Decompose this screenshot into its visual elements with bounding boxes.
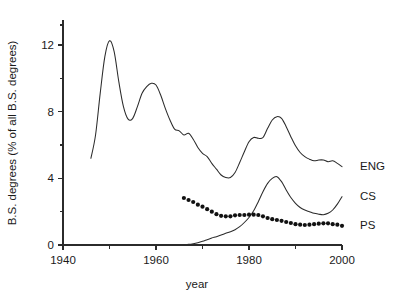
data-point xyxy=(293,222,297,226)
data-point xyxy=(321,221,325,225)
data-point xyxy=(247,213,251,217)
y-tick-label: 0 xyxy=(48,239,54,251)
data-point xyxy=(335,223,339,227)
series-label-cs: CS xyxy=(360,190,376,202)
data-point xyxy=(312,222,316,226)
x-axis-title: year xyxy=(186,278,209,290)
chart-figure: 04812 1940196019802000 ENGCSPS year B.S.… xyxy=(0,0,394,298)
y-tick-label: 12 xyxy=(41,39,54,51)
x-tick-label: 2000 xyxy=(329,254,355,266)
data-point xyxy=(275,218,279,222)
data-point xyxy=(233,213,237,217)
data-point xyxy=(238,213,242,217)
data-point xyxy=(256,213,260,217)
data-point xyxy=(303,223,307,227)
series-label-eng: ENG xyxy=(360,160,385,172)
data-point xyxy=(307,223,311,227)
data-point xyxy=(266,216,270,220)
data-point xyxy=(200,205,204,209)
line-chart: 04812 1940196019802000 ENGCSPS year B.S.… xyxy=(0,0,394,298)
data-point xyxy=(331,222,335,226)
data-point xyxy=(224,214,228,218)
data-point xyxy=(340,224,344,228)
data-point xyxy=(196,203,200,207)
data-point xyxy=(191,200,195,204)
y-tick-label: 8 xyxy=(48,106,54,118)
x-tick-label: 1940 xyxy=(50,254,76,266)
data-point xyxy=(326,221,330,225)
data-point xyxy=(205,207,209,211)
data-point xyxy=(279,219,283,223)
data-point xyxy=(219,214,223,218)
data-point xyxy=(228,214,232,218)
x-tick-label: 1980 xyxy=(236,254,262,266)
data-point xyxy=(317,222,321,226)
data-point xyxy=(298,223,302,227)
data-point xyxy=(252,213,256,217)
data-point xyxy=(270,217,274,221)
series-label-ps: PS xyxy=(360,219,376,231)
data-point xyxy=(261,214,265,218)
x-tick-label: 1960 xyxy=(143,254,169,266)
data-point xyxy=(210,210,214,214)
data-point xyxy=(242,213,246,217)
data-point xyxy=(182,196,186,200)
y-tick-label: 4 xyxy=(48,172,55,184)
data-point xyxy=(214,212,218,216)
data-point xyxy=(186,198,190,202)
data-point xyxy=(284,220,288,224)
data-point xyxy=(289,221,293,225)
y-axis-title: B.S. degrees (% of all B.S. degrees) xyxy=(6,40,18,225)
